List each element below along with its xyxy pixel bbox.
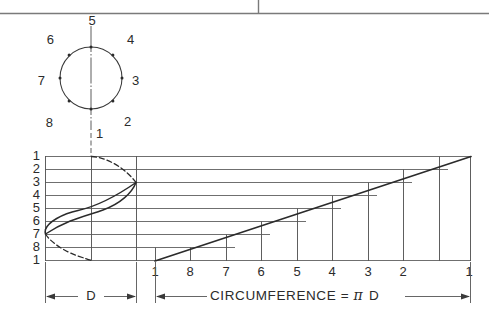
diameter-label: D [86, 288, 95, 303]
row-label-9: 1 [33, 252, 40, 267]
circle-label-3: 3 [132, 73, 139, 88]
dim-arrow-d-left [46, 294, 55, 300]
development-view: 1 2 3 4 5 6 7 8 1 1 8 [33, 133, 473, 303]
circle-label-2: 2 [124, 114, 131, 129]
point-6-marker [68, 54, 71, 57]
station-label-1c: 1 [465, 264, 472, 279]
circle-label-7: 7 [38, 73, 45, 88]
diameter-symbol: D [369, 288, 379, 303]
point-4-marker [111, 54, 114, 57]
station-label-4: 4 [328, 264, 335, 279]
point-3-marker [121, 77, 124, 80]
station-label-7: 7 [222, 264, 229, 279]
circle-label-6: 6 [47, 32, 54, 47]
circle-label-5: 5 [88, 13, 95, 28]
element-lines [45, 157, 471, 261]
pi-symbol: π [352, 287, 363, 303]
point-8-marker [68, 99, 71, 102]
station-label-3: 3 [364, 264, 371, 279]
circ-arrow-right [461, 294, 470, 300]
bottom-station-labels: 1 8 7 6 5 4 3 2 1 [151, 264, 472, 279]
station-label-2: 2 [399, 264, 406, 279]
circle-label-1: 1 [96, 126, 103, 141]
point-1-marker [90, 108, 93, 111]
circ-arrow-left [156, 294, 165, 300]
helix-front-curve-upper [46, 183, 137, 230]
end-view-circle: 1 2 3 4 5 6 7 8 [38, 13, 139, 141]
circle-label-8: 8 [46, 115, 53, 130]
dim-arrow-d-right [127, 294, 136, 300]
point-5-marker [90, 46, 93, 49]
sheet-border [0, 0, 489, 14]
circumference-label: CIRCUMFERENCE = [210, 288, 349, 303]
circle-label-4: 4 [127, 32, 134, 47]
point-2-marker [111, 99, 114, 102]
point-7-marker [59, 77, 62, 80]
drawing-canvas: 1 2 3 4 5 6 7 8 [0, 0, 489, 328]
station-label-8: 8 [186, 264, 193, 279]
technical-drawing-svg: 1 2 3 4 5 6 7 8 [0, 0, 489, 328]
left-row-labels: 1 2 3 4 5 6 7 8 1 [33, 148, 40, 267]
station-label-5: 5 [293, 264, 300, 279]
station-label-6: 6 [257, 264, 264, 279]
station-label-1: 1 [151, 264, 158, 279]
